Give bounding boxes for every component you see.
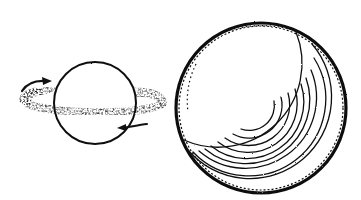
large-sphere: [176, 23, 346, 193]
illustration: [0, 0, 361, 200]
small-sphere: [54, 62, 136, 144]
